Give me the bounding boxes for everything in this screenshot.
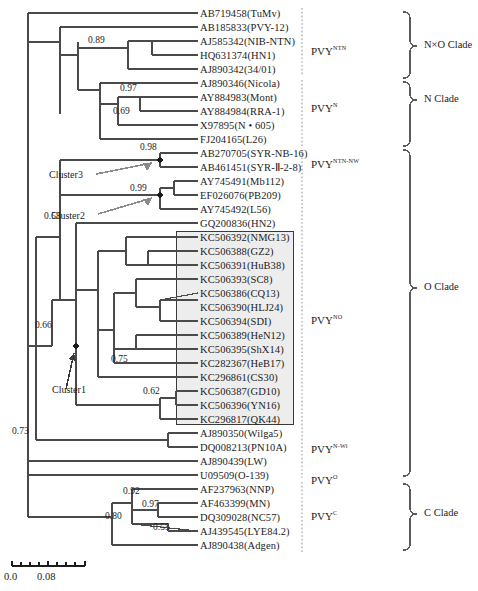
- cluster2-node-dot: [157, 192, 162, 197]
- strain-superscript: C: [333, 509, 337, 516]
- bootstrap-value: 0.92: [123, 486, 140, 496]
- bootstrap-value: 0.73: [12, 426, 29, 436]
- clade-label-o: O Clade: [424, 281, 459, 292]
- strain-base: PVY: [311, 158, 333, 170]
- clade-label-nxo: N×O Clade: [424, 39, 472, 50]
- strain-superscript: NO: [333, 313, 342, 320]
- bootstrap-value: 0.66: [35, 320, 52, 330]
- taxon-label: KC506392(NMG13): [200, 232, 290, 243]
- taxon-label: AY884984(RRA-1): [200, 106, 285, 117]
- strain-base: PVY: [311, 474, 333, 486]
- taxon-label: HQ631374(HN1): [200, 50, 275, 61]
- clade-label-n: N Clade: [424, 93, 459, 104]
- bootstrap-value: 0.89: [88, 35, 105, 45]
- bootstrap-value: 0.55: [153, 522, 170, 532]
- strain-base: PVY: [311, 443, 333, 455]
- bootstrap-value: 0.98: [140, 142, 157, 152]
- strain-base: PVY: [311, 314, 333, 326]
- bootstrap-value: 0.97: [120, 83, 137, 93]
- taxon-label: AJ439545(LYE84.2): [200, 526, 290, 537]
- taxon-label: X97895(N • 605): [200, 120, 275, 131]
- strain-superscript: N: [333, 101, 338, 108]
- taxon-label: KC506389(HeN12): [200, 330, 285, 341]
- taxon-label: AB270705(SYR-NB-16): [200, 148, 307, 159]
- cluster1-label: Cluster1: [52, 385, 86, 395]
- bootstrap-value: 0.75: [111, 354, 128, 364]
- bootstrap-value: 0.62: [143, 386, 160, 396]
- bootstrap-value: 0.80: [105, 511, 122, 521]
- taxon-label: KC506393(SC8): [200, 274, 272, 285]
- scale-bar-right-label: 0.08: [37, 571, 55, 582]
- strain-superscript: NTN-NW: [333, 157, 359, 164]
- taxon-label: U09509(O-139): [200, 470, 269, 481]
- taxon-label: AF237963(NNP): [200, 484, 274, 495]
- strain-group-label-c: PVYC: [311, 507, 337, 522]
- taxon-label: FJ204165(L26): [200, 134, 267, 145]
- taxon-label: EF026076(PB209): [200, 190, 281, 201]
- cluster2-label: Cluster2: [51, 211, 85, 221]
- taxon-label: KC506391(HuB38): [200, 260, 285, 271]
- taxon-label: AB185833(PVY-12): [200, 22, 289, 33]
- taxon-label: AY745492(L56): [200, 204, 271, 215]
- strain-superscript: O: [333, 473, 338, 480]
- bootstrap-value: 0.97: [142, 499, 159, 509]
- cluster3-label: Cluster3: [49, 170, 83, 180]
- taxon-label: AF463399(MN): [200, 498, 270, 509]
- taxon-label: KC506388(GZ2): [200, 246, 274, 257]
- clade-label-c: C Clade: [424, 507, 458, 518]
- cluster3-node-dot: [157, 157, 162, 162]
- taxon-label: AJ890350(Wilga5): [200, 428, 282, 439]
- scale-bar-left-label: 0.0: [4, 571, 17, 582]
- strain-group-label-n: PVYN: [311, 99, 338, 114]
- cluster1-node-dot: [73, 343, 78, 348]
- strain-group-label-ntn-nw: PVYNTN-NW: [311, 155, 359, 170]
- taxon-label: AJ890438(Adgen): [200, 540, 280, 551]
- bootstrap-value: 0.69: [113, 106, 130, 116]
- taxon-label: AJ890439(LW): [200, 456, 267, 467]
- strain-group-label-o: PVYO: [311, 471, 338, 486]
- taxon-label: AJ890346(Nicola): [200, 78, 280, 89]
- strain-superscript: NTN: [333, 44, 346, 51]
- taxon-label: AY884983(Mont): [200, 92, 277, 103]
- taxon-label: AJ890342(34/01): [200, 64, 276, 75]
- taxon-label: KC506395(ShX14): [200, 344, 284, 355]
- strain-group-label-n-wi: PVYN-Wi: [311, 440, 348, 455]
- bootstrap-value: 0.99: [130, 183, 147, 193]
- strain-base: PVY: [311, 45, 333, 57]
- taxon-label: AB719458(TuMv): [200, 8, 280, 19]
- taxon-label: KC506386(CQ13): [200, 288, 280, 299]
- taxon-label: AB461451(SYR-Ⅱ-2-8): [200, 162, 301, 173]
- strain-superscript: N-Wi: [333, 442, 348, 449]
- strain-group-label-no: PVYNO: [311, 311, 342, 326]
- taxon-label: AY745491(Mb112): [200, 176, 284, 187]
- taxon-label: KC296861(CS30): [200, 372, 278, 383]
- taxon-label: KC506394(SDI): [200, 316, 271, 327]
- taxon-label: KC506390(HLJ24): [200, 302, 283, 313]
- strain-base: PVY: [311, 510, 333, 522]
- taxon-label: KC506396(YN16): [200, 400, 280, 411]
- strain-group-label-ntn: PVYNTN: [311, 42, 346, 57]
- strain-base: PVY: [311, 102, 333, 114]
- taxon-label: DQ008213(PN10A): [200, 442, 287, 453]
- taxon-label: DQ309028(NC57): [200, 512, 280, 523]
- taxon-label: KC282367(HeB17): [200, 358, 284, 369]
- phylogenetic-tree-figure: AB719458(TuMv) AB185833(PVY-12) AJ585342…: [0, 0, 478, 591]
- taxon-label: KC506387(GD10): [200, 386, 280, 397]
- taxon-label: AJ585342(NIB-NTN): [200, 36, 295, 47]
- taxon-label: KC296817(QK44): [200, 414, 280, 425]
- taxon-label: GQ200836(HN2): [200, 218, 275, 229]
